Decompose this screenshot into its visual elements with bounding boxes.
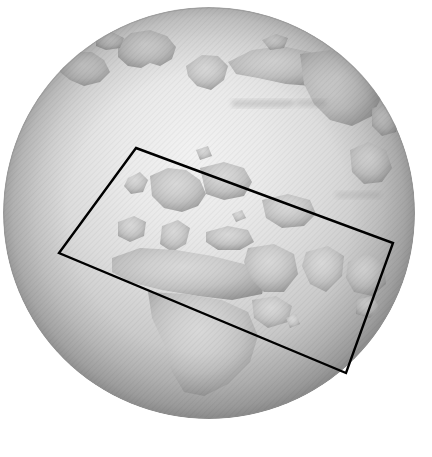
scan-hatch-texture (3, 7, 415, 419)
globe-canvas: Orthographic globe with rotated region-o… (0, 0, 432, 457)
globe-figure: Orthographic globe with rotated region-o… (0, 0, 432, 457)
globe-disc (3, 7, 415, 419)
